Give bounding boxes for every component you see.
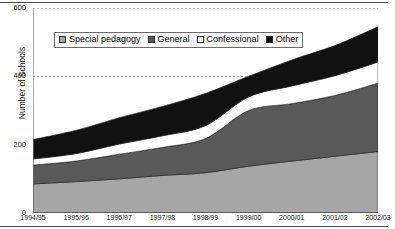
x-tick-label: 1995/96 xyxy=(52,214,100,222)
x-tick-label: 1996/97 xyxy=(95,214,143,222)
legend-label: General xyxy=(158,34,190,45)
legend-swatch-icon xyxy=(266,36,273,43)
y-axis-title: Number of Schools xyxy=(17,13,27,153)
chart-legend: Special pedagogyGeneralConfessionalOther xyxy=(54,32,303,48)
legend-swatch-icon xyxy=(148,36,155,43)
legend-label: Special pedagogy xyxy=(69,34,141,45)
x-tick-label: 2001/02 xyxy=(311,214,359,222)
x-tick-label: 2000/01 xyxy=(268,214,316,222)
y-tick-label: 200 xyxy=(0,141,26,149)
bottom-rule xyxy=(0,226,388,227)
x-tick-label: 1994/95 xyxy=(9,214,57,222)
legend-entry: Special pedagogy xyxy=(59,34,141,45)
legend-label: Confessional xyxy=(207,34,259,45)
legend-label: Other xyxy=(276,34,299,45)
x-tick-label: 1997/98 xyxy=(138,214,186,222)
top-rule xyxy=(0,2,388,3)
y-tick-label: 400 xyxy=(0,72,26,80)
x-tick-label: 1999/00 xyxy=(225,214,273,222)
x-tick-label: 2002/03 xyxy=(354,214,395,222)
legend-swatch-icon xyxy=(197,36,204,43)
y-tick-label: 600 xyxy=(0,4,26,12)
legend-entry: General xyxy=(148,34,190,45)
legend-entry: Other xyxy=(266,34,299,45)
legend-entry: Confessional xyxy=(197,34,259,45)
legend-swatch-icon xyxy=(59,36,66,43)
x-tick-label: 1998/99 xyxy=(182,214,230,222)
